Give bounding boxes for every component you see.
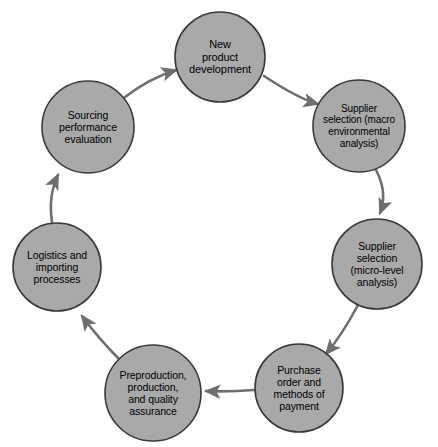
node-purchase-order-methods-of-payment[interactable] bbox=[255, 344, 343, 432]
node-preproduction-production-quality-assurance[interactable] bbox=[105, 345, 201, 441]
node-supplier-selection-micro[interactable] bbox=[332, 219, 422, 309]
node-sourcing-performance-evaluation[interactable] bbox=[42, 81, 134, 173]
arrow-sourcing-to-new-product bbox=[125, 70, 176, 97]
arrow-preproduction-to-logistics bbox=[82, 316, 120, 360]
node-new-product-development[interactable] bbox=[175, 12, 265, 102]
nodes-layer bbox=[13, 12, 422, 441]
cycle-diagram: New product developmentSupplier selectio… bbox=[0, 0, 438, 447]
arrow-logistics-to-sourcing bbox=[51, 175, 58, 222]
arrow-new-product-to-macro bbox=[264, 76, 318, 104]
cycle-diagram-canvas bbox=[0, 0, 438, 447]
node-logistics-and-importing-processes[interactable] bbox=[13, 223, 101, 311]
arrow-macro-to-micro bbox=[376, 170, 383, 213]
node-supplier-selection-macro[interactable] bbox=[313, 80, 405, 172]
arrow-micro-to-purchase-order bbox=[326, 305, 358, 354]
arrow-purchase-order-to-preproduction bbox=[206, 390, 254, 391]
